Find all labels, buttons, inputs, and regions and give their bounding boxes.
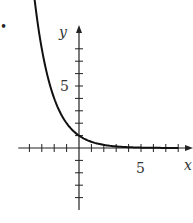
exponential-decay-chart: • yx55 <box>0 0 193 223</box>
x-tick-label: 5 <box>136 160 145 176</box>
axes <box>18 25 193 210</box>
y-axis-label: y <box>58 24 68 40</box>
data-curve <box>33 0 178 148</box>
y-tick-label: 5 <box>60 78 69 94</box>
tick-marks <box>29 49 178 198</box>
x-axis-label: x <box>184 157 192 173</box>
x-axis-arrow-icon <box>185 145 193 151</box>
axis-labels: yx55 <box>58 24 192 176</box>
problem-marker: • <box>0 20 7 34</box>
y-axis-arrow-icon <box>76 25 82 33</box>
